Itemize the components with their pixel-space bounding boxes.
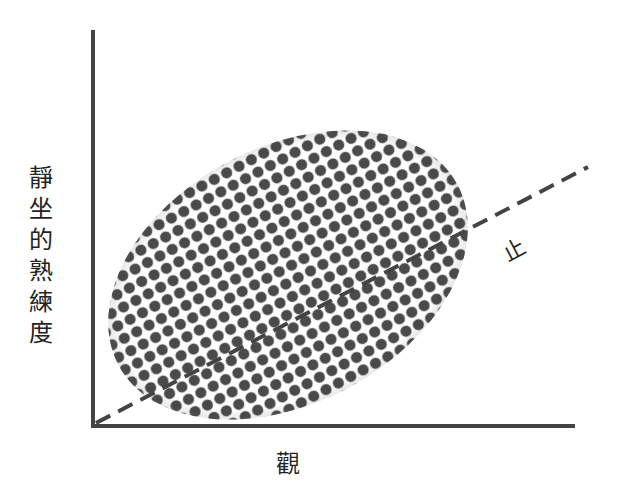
diagram-canvas	[0, 0, 623, 500]
dotted-ellipse	[58, 72, 520, 478]
y-axis-label-char: 的	[29, 225, 53, 256]
y-axis-label-char: 度	[29, 318, 53, 349]
y-axis-label-char: 坐	[29, 194, 53, 225]
y-axis-label-char: 練	[29, 287, 53, 318]
x-axis-label: 觀	[276, 444, 300, 479]
y-axis-label-char: 靜	[29, 163, 53, 194]
y-axis-label-char: 熟	[29, 256, 53, 287]
y-axis-label: 靜 坐 的 熟 練 度	[26, 163, 56, 349]
